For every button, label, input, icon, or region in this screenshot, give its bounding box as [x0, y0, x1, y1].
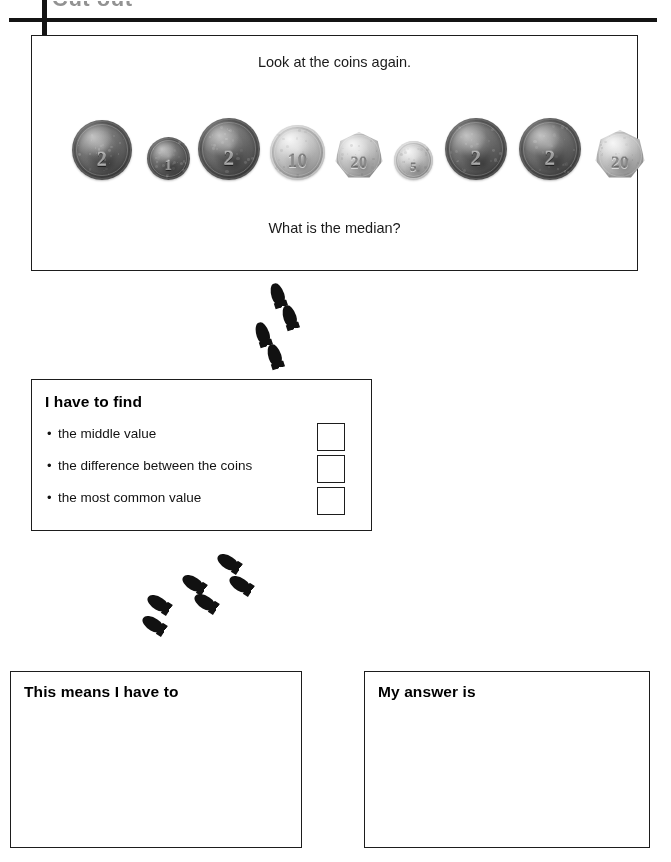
coin-2p: 2 — [198, 118, 260, 180]
coin-20p: 20 — [595, 130, 645, 180]
bullet-icon: • — [47, 490, 58, 505]
coin-value-label: 20 — [335, 132, 383, 180]
find-option-checkbox-1[interactable] — [317, 423, 345, 451]
coin-texture-speck — [377, 174, 379, 176]
coin-row: 212102052220 — [32, 100, 637, 180]
footprint-icon — [253, 321, 272, 346]
footprint-icon — [280, 304, 299, 329]
coin-2p: 2 — [445, 118, 507, 180]
coin-value-label: 2 — [445, 118, 507, 180]
coin-2p: 2 — [519, 118, 581, 180]
answer-panel[interactable]: My answer is — [364, 671, 650, 848]
find-option-label: the difference between the coins — [58, 458, 252, 473]
coin-5p: 5 — [394, 141, 433, 180]
coin-value-label: 1 — [147, 137, 190, 180]
footprint-icon — [180, 572, 206, 595]
coin-texture-speck — [376, 175, 378, 177]
means-panel-heading: This means I have to — [24, 683, 178, 701]
means-panel[interactable]: This means I have to — [10, 671, 302, 848]
footprint-icon — [192, 591, 218, 614]
footprint-icon — [268, 282, 287, 307]
footprint-icon — [215, 551, 241, 574]
find-panel-title: I have to find — [45, 393, 142, 411]
coin-10p: 10 — [270, 125, 325, 180]
coin-value-label: 5 — [394, 141, 433, 180]
question-panel: Look at the coins again. 212102052220 Wh… — [31, 35, 638, 271]
page-header-partial: Cut out — [52, 0, 132, 12]
question-prompt-bottom: What is the median? — [32, 220, 637, 236]
footprint-icon — [145, 592, 171, 615]
coin-texture-speck — [342, 174, 345, 177]
coin-20p: 20 — [335, 132, 383, 180]
coin-texture-speck — [604, 173, 605, 174]
find-option-2: •the difference between the coins — [47, 458, 252, 473]
coin-value-label: 20 — [595, 130, 645, 180]
coin-texture-speck — [339, 173, 340, 174]
find-option-checkbox-2[interactable] — [317, 455, 345, 483]
coin-value-label: 10 — [270, 125, 325, 180]
coin-value-label: 2 — [198, 118, 260, 180]
coin-value-label: 2 — [519, 118, 581, 180]
find-option-1: •the middle value — [47, 426, 156, 441]
coin-value-label: 2 — [72, 120, 132, 180]
find-option-label: the middle value — [58, 426, 156, 441]
find-option-label: the most common value — [58, 490, 201, 505]
bullet-icon: • — [47, 458, 58, 473]
crop-rule-horizontal — [9, 18, 657, 22]
coin-2p: 2 — [72, 120, 132, 180]
find-option-3: •the most common value — [47, 490, 201, 505]
find-panel: I have to find •the middle value•the dif… — [31, 379, 372, 531]
question-prompt-top: Look at the coins again. — [32, 54, 637, 70]
footprint-icon — [227, 573, 253, 596]
coin-1p: 1 — [147, 137, 190, 180]
find-option-checkbox-3[interactable] — [317, 487, 345, 515]
footprint-icon — [140, 613, 166, 636]
answer-panel-heading: My answer is — [378, 683, 476, 701]
footprint-icon — [265, 343, 284, 368]
bullet-icon: • — [47, 426, 58, 441]
